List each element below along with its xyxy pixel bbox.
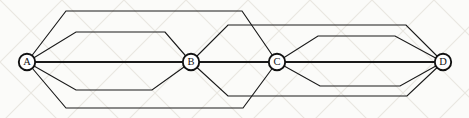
graph-edge-b-d bbox=[191, 25, 443, 62]
graph-edge-c-d bbox=[277, 62, 443, 86]
graph-node-d: D bbox=[435, 54, 451, 70]
graph-edge-b-d bbox=[191, 62, 443, 96]
graph-diagram-canvas: ABCD bbox=[0, 0, 469, 118]
graph-node-a: A bbox=[19, 54, 35, 70]
graph-edge-a-c bbox=[27, 11, 277, 62]
node-label-d: D bbox=[439, 56, 447, 67]
graph-node-b: B bbox=[183, 54, 199, 70]
graph-edge-a-b bbox=[27, 32, 191, 62]
node-label-c: C bbox=[273, 56, 280, 67]
edge-layer bbox=[27, 11, 443, 108]
graph-edge-c-d bbox=[277, 36, 443, 62]
node-label-b: B bbox=[187, 56, 194, 67]
graph-edge-a-b bbox=[27, 62, 191, 90]
multigraph-svg: ABCD bbox=[0, 0, 469, 118]
node-label-a: A bbox=[23, 56, 31, 67]
graph-node-c: C bbox=[269, 54, 285, 70]
graph-edge-a-c bbox=[27, 62, 277, 108]
